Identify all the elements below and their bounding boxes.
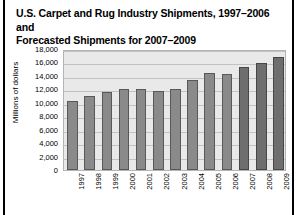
bar-2000 — [119, 89, 130, 170]
y-axis-tick-label: 12,000 — [35, 86, 58, 94]
bar-2005 — [204, 73, 215, 170]
x-axis-tick-labels: 1997199819992000200120022003200420052006… — [63, 173, 286, 215]
figure-container: U.S. Carpet and Rug Industry Shipments, … — [0, 0, 300, 215]
x-axis-tick-label-2007: 2007 — [248, 173, 257, 207]
y-axis-tick-labels: 18,00016,00014,00012,00010,0008,0006,000… — [0, 50, 61, 171]
bar-chart: Millions of dollars 18,00016,00014,00012… — [0, 40, 300, 215]
x-axis-tick-label-2006: 2006 — [231, 173, 240, 207]
x-axis-tick-label-1999: 1999 — [111, 173, 120, 207]
bar-series — [64, 51, 285, 170]
y-axis-tick-label: 18,000 — [35, 46, 58, 54]
x-axis-tick-label-2001: 2001 — [145, 173, 154, 207]
bar-2007 — [239, 67, 250, 170]
chart-title-line-1: U.S. Carpet and Rug Industry Shipments, … — [16, 7, 284, 34]
y-axis-tick-label: 8,000 — [39, 113, 58, 121]
plot-area — [63, 50, 286, 171]
x-axis-tick-label-1998: 1998 — [94, 173, 103, 207]
x-axis-tick-label-1997: 1997 — [77, 173, 86, 207]
bar-2004 — [187, 80, 198, 170]
y-axis-tick-label: 6,000 — [39, 127, 58, 135]
y-axis-tick-label: 16,000 — [35, 59, 58, 67]
bar-2002 — [153, 91, 164, 170]
bar-2001 — [136, 89, 147, 170]
bar-2006 — [222, 74, 233, 170]
bar-2008 — [256, 63, 267, 170]
x-axis-tick-label-2005: 2005 — [214, 173, 223, 207]
y-axis-tick-label: 2,000 — [39, 154, 58, 162]
bar-2003 — [170, 89, 181, 170]
bar-1998 — [84, 96, 95, 170]
bar-1997 — [67, 101, 78, 170]
x-axis-tick-label-2008: 2008 — [265, 173, 274, 207]
y-axis-tick-label: 14,000 — [35, 73, 58, 81]
x-axis-tick-label-2009: 2009 — [282, 173, 291, 207]
y-axis-tick-label: 0 — [54, 167, 58, 175]
x-axis-tick-label-2000: 2000 — [128, 173, 137, 207]
x-axis-tick-label-2002: 2002 — [162, 173, 171, 207]
x-axis-tick-label-2004: 2004 — [197, 173, 206, 207]
bar-1999 — [102, 92, 113, 170]
y-axis-tick-label: 10,000 — [35, 100, 58, 108]
bar-2009 — [273, 57, 284, 170]
y-axis-tick-label: 4,000 — [39, 140, 58, 148]
x-axis-tick-label-2003: 2003 — [180, 173, 189, 207]
